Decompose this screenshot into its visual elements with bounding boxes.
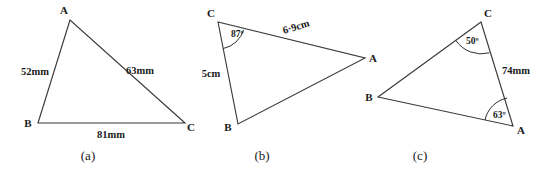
triangle-c-angle-label-A: 63º [493,110,506,120]
triangle-a-side-label-right: 63mm [126,65,154,76]
panel-b: C B A 87º 5cm 6·9cm (b) [202,7,377,163]
triangle-c-vertex-label-C: C [484,7,492,19]
triangle-a-side-label-base: 81mm [97,129,125,140]
panel-b-caption: (b) [254,148,269,163]
panel-a: A B C 52mm 63mm 81mm (a) [21,4,195,163]
triangle-a-vertex-label-C: C [187,121,195,133]
panel-a-caption: (a) [81,148,95,163]
triangle-b-angle-label-C: 87º [231,29,244,39]
triangle-b-side-label-left: 5cm [202,68,221,79]
triangles-figure: A B C 52mm 63mm 81mm (a) C B A 87º 5cm 6… [0,0,544,171]
triangle-b-vertex-label-B: B [224,121,232,133]
panel-c: C B A 50º 63º 74mm (c) [365,7,530,163]
triangle-c-angle-label-C: 50º [466,36,479,46]
triangle-b-vertex-label-C: C [207,7,215,19]
triangle-c-side-label-right: 74mm [502,65,530,76]
figure-root: A B C 52mm 63mm 81mm (a) C B A 87º 5cm 6… [0,0,544,171]
triangle-a-outline [38,20,185,123]
triangle-a-side-label-left: 52mm [21,66,49,77]
triangle-c-vertex-label-B: B [365,91,373,103]
triangle-b-side-label-top: 6·9cm [281,17,311,36]
triangle-c-vertex-label-A: A [517,124,525,136]
triangle-b-vertex-label-A: A [369,52,377,64]
triangle-a-vertex-label-A: A [60,4,68,16]
panel-c-caption: (c) [413,148,427,163]
triangle-a-vertex-label-B: B [24,117,32,129]
